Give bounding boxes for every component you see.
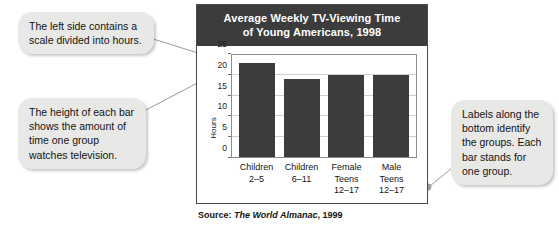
y-axis-label: Hours [209,117,218,138]
x-axis-category-label: FemaleTeens12–17 [324,162,369,197]
y-axis-tick-mark [228,95,231,96]
y-axis-tick-label: 15 [218,81,227,91]
source-line: Source: The World Almanac, 1999 [198,210,343,220]
y-axis-tick-label: 20 [218,60,227,70]
y-axis-tick-mark [228,115,231,116]
x-axis-category-line: 12–17 [324,185,369,197]
y-axis-tick-mark [228,53,231,54]
chart-panel: Average Weekly TV-Viewing Time of Young … [196,4,428,204]
bar-series [232,55,416,157]
x-axis-category-line: Children [234,162,279,174]
callout-bar-height: The height of each bar shows the amount … [18,98,146,169]
y-axis-tick-label: 0 [222,143,227,153]
plot-area [231,54,417,158]
y-axis-tick-mark [228,136,231,137]
chart-title-line-1: Average Weekly TV-Viewing Time [201,11,423,25]
bar [239,63,275,157]
chart-title-line-2: of Young Americans, 1998 [201,25,423,39]
bar [328,75,364,157]
y-axis-tick-mark [228,74,231,75]
callout-bottom-labels: Labels along the bottom identify the gro… [451,100,553,185]
x-axis-category-line: 12–17 [369,185,414,197]
y-axis-tick-mark [228,157,231,158]
x-axis-category-line: 6–11 [279,174,324,186]
callout-scale: The left side contains a scale divided i… [18,12,154,54]
plot-wrapper: 0510152025 [231,54,417,158]
y-axis-tick-label: 25 [218,39,227,49]
x-axis-category-line: Teens [324,174,369,186]
bar [284,79,320,157]
x-axis-category-line: Male [369,162,414,174]
x-axis-category-label: Children6–11 [279,162,324,197]
y-axis-tick-label: 10 [218,101,227,111]
x-axis-category-label: Children2–5 [234,162,279,197]
chart-body: Hours 0510152025 Children2–5Children6–11… [197,46,427,210]
x-axis-category-line: Female [324,162,369,174]
y-axis-tick-label: 5 [222,122,227,132]
x-axis-category-line: Teens [369,174,414,186]
source-year: , 1999 [318,210,343,220]
x-axis-category-line: Children [279,162,324,174]
x-axis-labels: Children2–5Children6–11FemaleTeens12–17M… [231,162,417,197]
bar [373,75,409,157]
x-axis-category-line: 2–5 [234,174,279,186]
source-publication: The World Almanac [234,210,318,220]
source-prefix: Source: [198,210,234,220]
chart-title: Average Weekly TV-Viewing Time of Young … [197,5,427,46]
x-axis-category-label: MaleTeens12–17 [369,162,414,197]
